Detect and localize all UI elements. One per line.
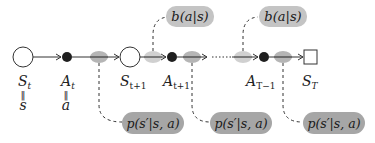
transition-label: p(s′|s, a) [126, 116, 179, 131]
action-node-aT1 [259, 52, 269, 62]
transition-connector [283, 63, 302, 122]
transition-label: p(s′|s, a) [214, 116, 267, 131]
policy-label: b(a|s) [171, 9, 208, 24]
transition-label: p(s′|s, a) [307, 116, 360, 131]
label-at1: At+1 [161, 73, 190, 91]
value-a: a [62, 97, 70, 113]
label-st1: St+1 [120, 73, 146, 91]
trajectory-diagram: b(a|s) b(a|s) p(s′|s, a) p(s′|s, a) p(s′… [0, 0, 375, 143]
label-aT1: AT−1 [244, 73, 275, 91]
transition-connector [192, 63, 210, 122]
action-node-at [62, 52, 72, 62]
policy-connector [243, 17, 258, 51]
policy-label: b(a|s) [264, 9, 301, 24]
state-node-st1 [120, 47, 140, 67]
action-node-at1 [167, 52, 177, 62]
value-s: s [19, 97, 26, 113]
transition-connector [99, 63, 122, 122]
policy-connector [153, 17, 168, 51]
terminal-state-node [304, 50, 317, 64]
state-node-st [13, 47, 33, 67]
label-sT: ST [302, 73, 319, 91]
